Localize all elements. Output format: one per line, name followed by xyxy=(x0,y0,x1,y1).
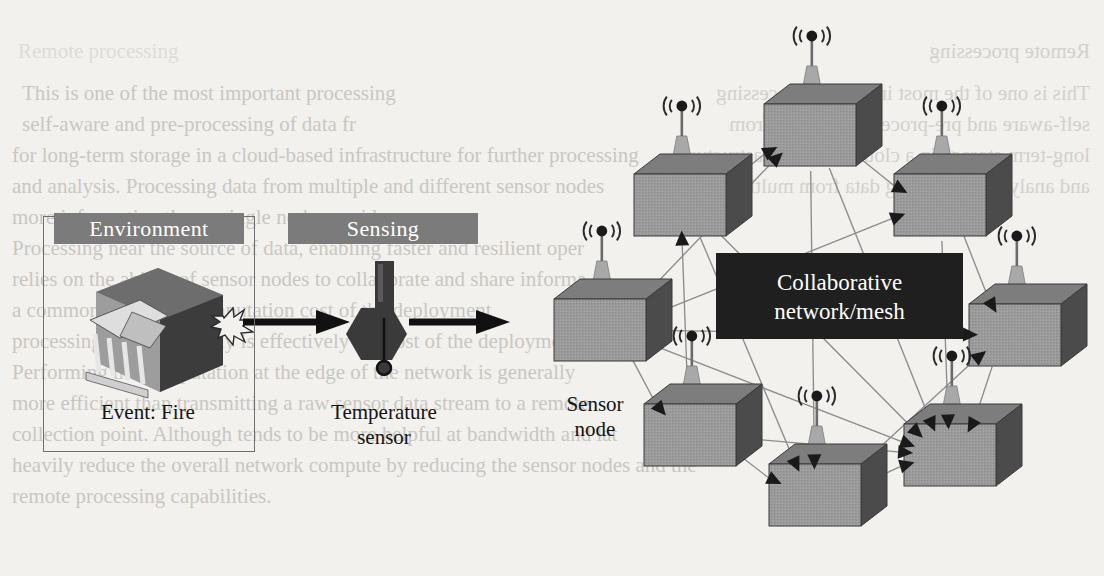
antenna-wave-icon xyxy=(697,97,700,116)
antenna-wave-icon xyxy=(612,225,614,237)
antenna-wave-icon xyxy=(805,390,807,402)
antenna-wave-icon xyxy=(707,327,710,346)
antenna-wave-icon xyxy=(924,97,927,116)
event-fire-caption-text: Event: Fire xyxy=(101,400,195,424)
antenna-tip-icon xyxy=(676,101,687,112)
temperature-sensor-caption-line1: Temperature xyxy=(288,400,480,425)
antenna-wave-icon xyxy=(967,347,970,366)
antenna-wave-icon xyxy=(827,390,829,402)
antenna-tip-icon xyxy=(1011,231,1022,242)
environment-header-band: Environment xyxy=(54,213,244,244)
antenna-wave-icon xyxy=(794,27,797,46)
antenna-tip-icon xyxy=(811,391,822,402)
sensing-header-band: Sensing xyxy=(288,213,478,244)
antenna-wave-icon xyxy=(962,350,964,362)
temperature-sensor-caption-line2: sensor xyxy=(288,425,480,450)
cube-front-face xyxy=(554,299,646,361)
antenna-wave-icon xyxy=(822,30,824,42)
antenna-wave-icon xyxy=(940,350,942,362)
antenna-wave-icon xyxy=(827,27,830,46)
antenna-tip-icon xyxy=(946,351,957,362)
mesh-link xyxy=(964,236,989,300)
antenna-wave-icon xyxy=(832,387,835,406)
antenna-wave-icon xyxy=(1005,230,1007,242)
antenna-wave-icon xyxy=(584,222,587,241)
sensor-node-bottom xyxy=(769,387,887,526)
antenna-wave-icon xyxy=(1032,227,1035,246)
antenna-wave-icon xyxy=(1027,230,1029,242)
cube-front-face xyxy=(634,174,726,236)
collaborative-network-box xyxy=(716,253,963,339)
cube-front-face xyxy=(644,404,736,466)
cube-front-face xyxy=(769,464,861,526)
antenna-wave-icon xyxy=(930,100,932,112)
antenna-wave-icon xyxy=(590,225,592,237)
antenna-wave-icon xyxy=(999,227,1002,246)
sensing-header-label: Sensing xyxy=(347,216,419,241)
sensor-node-lower-right xyxy=(904,347,1022,486)
antenna-tip-icon xyxy=(806,31,817,42)
antenna-wave-icon xyxy=(617,222,620,241)
antenna-tip-icon xyxy=(686,331,697,342)
antenna-wave-icon xyxy=(674,327,677,346)
environment-header-label: Environment xyxy=(89,216,208,241)
sensor-node-right xyxy=(969,227,1087,366)
sensor-node-top xyxy=(764,27,882,166)
temperature-sensor-caption: Temperature sensor xyxy=(288,400,480,450)
antenna-tip-icon xyxy=(936,101,947,112)
antenna-wave-icon xyxy=(800,30,802,42)
sensor-node-left xyxy=(554,222,672,361)
sensor-node-legend-line1: Sensor xyxy=(540,392,650,417)
cube-front-face xyxy=(894,174,986,236)
antenna-wave-icon xyxy=(702,330,704,342)
sensor-node-legend-line2: node xyxy=(540,417,650,442)
antenna-wave-icon xyxy=(957,97,960,116)
antenna-tip-icon xyxy=(596,226,607,237)
antenna-wave-icon xyxy=(680,330,682,342)
sensor-node-upper-right xyxy=(894,97,1012,236)
figure-canvas: Remote processing This is one of the mos… xyxy=(0,0,1104,576)
event-fire-caption: Event: Fire xyxy=(43,400,253,425)
arrow-environment-to-sensing xyxy=(243,310,350,334)
antenna-wave-icon xyxy=(952,100,954,112)
antenna-wave-icon xyxy=(670,100,672,112)
arrow-sensing-to-network xyxy=(409,310,510,334)
thermometer-icon xyxy=(346,261,407,375)
sensor-node-upper-left xyxy=(634,97,752,236)
sensor-node-legend: Sensor node xyxy=(540,392,650,442)
antenna-wave-icon xyxy=(692,100,694,112)
antenna-wave-icon xyxy=(934,347,937,366)
antenna-wave-icon xyxy=(664,97,667,116)
